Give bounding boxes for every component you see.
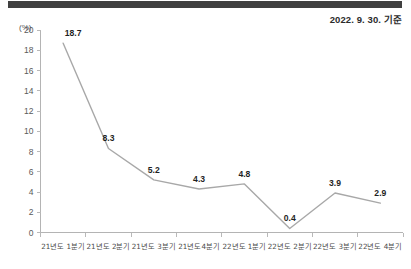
line-chart-plot: 02468101214161820 18.78.35.24.34.80.43.9… bbox=[0, 0, 411, 269]
y-axis-tick-label: 12 bbox=[24, 106, 34, 116]
y-axis-tick-label: 20 bbox=[24, 25, 34, 35]
y-axis-tick-label: 10 bbox=[24, 126, 34, 136]
x-axis-ticks bbox=[41, 233, 404, 237]
y-axis-tick-label: 2 bbox=[29, 207, 34, 217]
y-axis-tick-label: 8 bbox=[29, 147, 34, 157]
y-axis-tick-label: 4 bbox=[29, 187, 34, 197]
data-point-label: 4.3 bbox=[193, 174, 205, 184]
x-axis-tick-label: 21년도4분기 bbox=[178, 242, 220, 251]
x-axis-tick-label: 22년도 2분기 bbox=[268, 242, 312, 251]
y-axis-tick-label: 14 bbox=[24, 86, 34, 96]
data-point-label: 5.2 bbox=[148, 165, 160, 175]
x-axis-tick-label: 21년도 2분기 bbox=[86, 242, 130, 251]
x-axis-tick-labels: 21년도 1분기21년도 2분기21년도 3분기21년도4분기22년도 1분기2… bbox=[41, 242, 402, 251]
x-axis-group bbox=[41, 233, 404, 237]
data-point-label: 3.9 bbox=[329, 178, 341, 188]
data-point-label: 18.7 bbox=[65, 28, 82, 38]
y-axis-tick-label: 0 bbox=[29, 228, 34, 238]
x-axis-tick-label: 22년도 1분기 bbox=[222, 242, 266, 251]
x-axis-tick-label: 22년도 4분기 bbox=[358, 242, 402, 251]
y-axis-tick-label: 18 bbox=[24, 45, 34, 55]
y-axis-tick-label: 6 bbox=[29, 167, 34, 177]
x-axis-tick-label: 21년도 1분기 bbox=[41, 242, 85, 251]
x-axis-tick-label: 22년도 3분기 bbox=[313, 242, 357, 251]
data-point-label: 8.3 bbox=[102, 133, 114, 143]
y-axis-group: 02468101214161820 bbox=[24, 25, 40, 238]
y-axis-ticks: 02468101214161820 bbox=[24, 25, 40, 238]
data-point-label: 2.9 bbox=[374, 188, 386, 198]
data-point-label: 0.4 bbox=[284, 213, 296, 223]
data-point-label: 4.8 bbox=[238, 169, 250, 179]
chart-container: 2022. 9. 30. 기준 (%) 02468101214161820 18… bbox=[0, 0, 411, 269]
x-axis-tick-label: 21년도 3분기 bbox=[132, 242, 176, 251]
y-axis-tick-label: 16 bbox=[24, 66, 34, 76]
